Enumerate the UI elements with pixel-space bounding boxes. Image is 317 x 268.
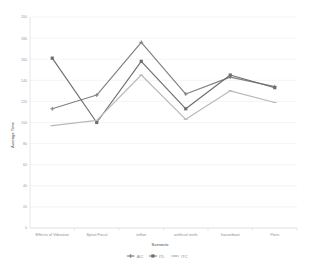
data-point-marker — [184, 107, 187, 110]
data-point-marker — [140, 60, 143, 63]
x-tick-label: houseboat — [221, 232, 241, 237]
y-tick-label: 60 — [23, 163, 27, 167]
y-tick-label: 180 — [21, 37, 27, 41]
legend-label-itc: ITC — [181, 254, 188, 259]
data-point-marker — [273, 86, 276, 89]
y-tick-label: 140 — [21, 79, 27, 83]
data-point-marker — [229, 73, 232, 76]
y-tick-label: 20 — [23, 205, 27, 209]
data-point-marker — [151, 254, 154, 257]
data-point-marker — [51, 57, 54, 60]
x-tick-label: teflon — [136, 232, 146, 237]
y-tick-label: 160 — [21, 58, 27, 62]
x-axis-title: Scenario — [152, 242, 169, 247]
x-tick-label: artificial reefs — [174, 232, 198, 237]
x-tick-label: Spiral Focal — [86, 232, 107, 237]
y-tick-label: 0 — [25, 226, 27, 230]
y-tick-label: 80 — [23, 142, 27, 146]
legend-label-aic: AIC — [137, 254, 144, 259]
x-tick-label: Piers — [270, 232, 279, 237]
x-tick-label: Effects of Vibration — [36, 232, 69, 237]
data-point-marker — [95, 121, 98, 124]
legend-label-itl: ITL — [159, 254, 166, 259]
y-axis-title: Average Time — [10, 121, 15, 148]
y-tick-label: 40 — [23, 184, 27, 188]
y-tick-label: 100 — [21, 121, 27, 125]
chart-container: 020406080100120140160180200 Effects of V… — [0, 0, 317, 268]
y-tick-label: 120 — [21, 100, 27, 104]
line-chart: 020406080100120140160180200 Effects of V… — [0, 0, 317, 268]
y-tick-label: 200 — [21, 15, 27, 19]
